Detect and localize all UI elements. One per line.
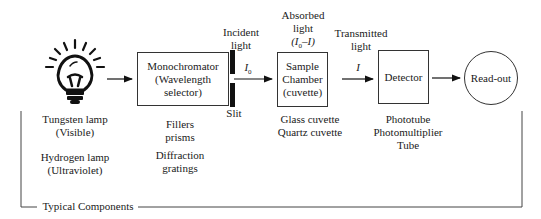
incident-light-label: Incident light — [218, 26, 264, 52]
incident-symbol-subscript: 0 — [248, 68, 252, 76]
glass-cuvette: Glass cuvette — [272, 113, 348, 126]
hydrogen-line-1: Hydrogen lamp — [35, 151, 115, 164]
component-fillers-prisms: Fillers prisms — [150, 118, 210, 144]
slit-label: Slit — [222, 107, 246, 120]
monochromator-line-2: (Wavelength — [155, 73, 211, 86]
fillers-line-1: Fillers — [150, 118, 210, 131]
detector-box: Detector — [378, 50, 429, 104]
component-hydrogen-lamp: Hydrogen lamp (Ultraviolet) — [35, 151, 115, 177]
detector-label: Detector — [385, 71, 423, 84]
quartz-cuvette: Quartz cuvette — [272, 126, 348, 139]
hydrogen-line-2: (Ultraviolet) — [35, 164, 115, 177]
component-detectors: Phototube Photomultiplier Tube — [368, 113, 448, 152]
diffraction-line-2: gratings — [145, 162, 215, 175]
monochromator-line-3: selector) — [164, 86, 202, 99]
absorbed-label-formula: (I0–I) — [277, 35, 329, 53]
light-bulb-icon — [46, 40, 104, 90]
diffraction-line-1: Diffraction — [145, 149, 215, 162]
component-cuvettes: Glass cuvette Quartz cuvette — [272, 113, 348, 139]
incident-intensity-symbol: I0 — [240, 61, 256, 79]
transmitted-label-line-1: Transmitted — [332, 27, 390, 40]
absorbed-light-label: Absorbed light (I0–I) — [277, 9, 329, 53]
fillers-line-2: prisms — [150, 131, 210, 144]
sample-line-3: (cuvette) — [283, 86, 322, 99]
sample-line-1: Sample — [286, 60, 319, 73]
phototube: Phototube — [368, 113, 448, 126]
light-bulb-base — [66, 90, 84, 104]
readout-label: Read-out — [471, 72, 511, 84]
component-tungsten-lamp: Tungsten lamp (Visible) — [35, 113, 115, 139]
monochromator-box: Monochromator (Wavelength selector) — [137, 52, 229, 106]
slit-upper-bar — [230, 50, 235, 74]
sample-line-2: Chamber — [282, 73, 322, 86]
tungsten-line-2: (Visible) — [35, 126, 115, 139]
incident-label-line-2: light — [218, 39, 264, 52]
photomultiplier: Photomultiplier — [368, 126, 448, 139]
readout-circle: Read-out — [464, 51, 518, 105]
slit-lower-bar — [230, 83, 235, 107]
monochromator-line-1: Monochromator — [147, 60, 218, 73]
transmitted-intensity-symbol: I — [352, 61, 364, 74]
component-diffraction-gratings: Diffraction gratings — [145, 149, 215, 175]
connector-layer — [0, 0, 541, 219]
typical-components-label: Typical Components — [40, 200, 136, 213]
sample-chamber-box: Sample Chamber (cuvette) — [277, 52, 328, 107]
tungsten-line-1: Tungsten lamp — [35, 113, 115, 126]
incident-label-line-1: Incident — [218, 26, 264, 39]
tube: Tube — [368, 139, 448, 152]
absorbed-label-line-2: light — [277, 22, 329, 35]
absorbed-label-line-1: Absorbed — [277, 9, 329, 22]
